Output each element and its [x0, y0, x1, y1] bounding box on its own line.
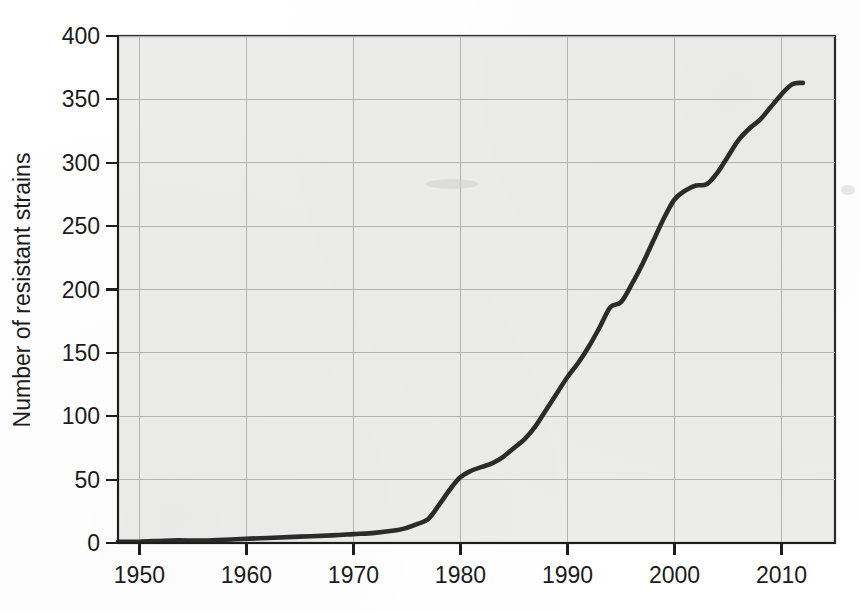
y-tick-label: 200 [62, 277, 100, 303]
y-tick-label: 400 [62, 23, 100, 49]
y-axis-ticks [106, 36, 118, 543]
x-tick-label: 2010 [756, 562, 807, 588]
x-axis-tick-labels: 1950196019701980199020002010 [114, 562, 807, 588]
y-tick-label: 250 [62, 213, 100, 239]
scan-smudge [841, 185, 855, 195]
x-tick-label: 1960 [221, 562, 272, 588]
x-tick-label: 1970 [328, 562, 379, 588]
x-tick-label: 1950 [114, 562, 165, 588]
y-tick-label: 300 [62, 150, 100, 176]
y-axis-title: Number of resistant strains [9, 153, 35, 428]
y-tick-label: 0 [87, 530, 100, 556]
scan-smudge [426, 179, 478, 189]
x-tick-label: 1990 [542, 562, 593, 588]
y-tick-label: 150 [62, 340, 100, 366]
y-tick-label: 350 [62, 86, 100, 112]
figure-container: 050100150200250300350400 195019601970198… [0, 0, 860, 612]
x-tick-label: 2000 [649, 562, 700, 588]
resistant-strains-line-chart: 050100150200250300350400 195019601970198… [0, 0, 860, 612]
x-tick-label: 1980 [435, 562, 486, 588]
y-tick-label: 100 [62, 403, 100, 429]
y-tick-label: 50 [74, 467, 100, 493]
x-axis-ticks [139, 543, 781, 555]
y-axis-tick-labels: 050100150200250300350400 [62, 23, 100, 556]
